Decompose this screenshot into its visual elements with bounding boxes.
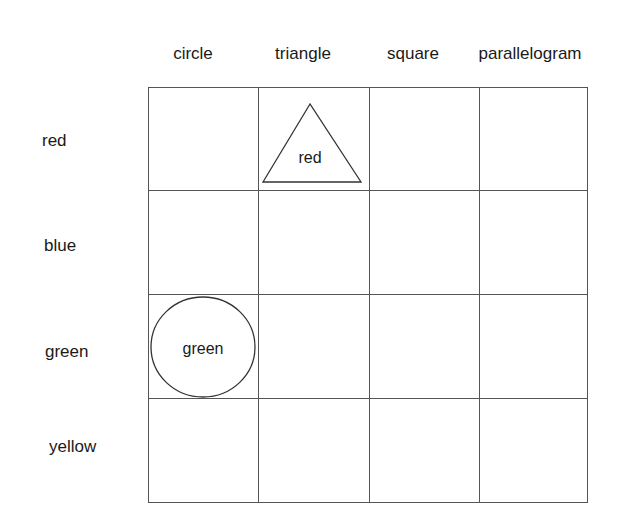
- triangle-label: red: [280, 149, 340, 167]
- circle-label: green: [163, 340, 243, 358]
- triangle-shape: [0, 0, 625, 531]
